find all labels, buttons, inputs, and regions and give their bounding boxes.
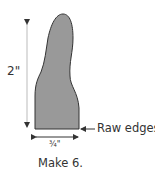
raw-edges-label: Raw edges <box>97 121 155 135</box>
pattern-diagram <box>0 0 155 178</box>
pattern-piece-shape <box>35 14 79 129</box>
width-label: ¾" <box>49 140 60 149</box>
height-label: 2" <box>7 64 20 78</box>
instruction-text: Make 6. <box>38 156 83 170</box>
